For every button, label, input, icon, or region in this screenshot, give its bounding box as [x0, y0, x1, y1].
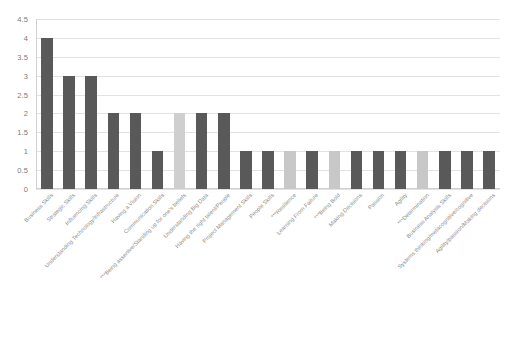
y-axis-tick-1: 1: [24, 147, 28, 156]
x-axis-label: Agility: [393, 192, 408, 207]
bar: [218, 113, 229, 189]
x-axis-label: Communication Skills: [122, 192, 165, 235]
x-axis-label: Learning From Failure: [276, 192, 320, 236]
bar: [483, 151, 494, 189]
y-axis-tick-4.5: 4.5: [17, 15, 28, 24]
x-axis-label: Passion: [367, 192, 386, 211]
y-axis-tick-labels: 00.511.522.533.544.5: [0, 19, 32, 189]
bar-chart: 00.511.522.533.544.5 Business SkillsStra…: [0, 0, 509, 345]
plot-area: [36, 19, 500, 189]
bar: [152, 151, 163, 189]
bar: [306, 151, 317, 189]
bar: [373, 151, 384, 189]
bar: [329, 151, 340, 189]
bar: [284, 151, 295, 189]
bar: [439, 151, 450, 189]
bar: [262, 151, 273, 189]
bar: [85, 76, 96, 189]
y-axis-tick-1.5: 1.5: [17, 128, 28, 137]
bar: [130, 113, 141, 189]
bar: [461, 151, 472, 189]
y-axis-tick-0.5: 0.5: [17, 166, 28, 175]
bar: [63, 76, 74, 189]
y-axis-tick-4: 4: [24, 33, 28, 42]
x-axis-label: ***Being assertive/Standing up for one's…: [98, 192, 186, 280]
y-axis-tick-3: 3: [24, 71, 28, 80]
x-axis-category-labels: Business SkillsStrategic SkillsInfluenci…: [36, 190, 500, 340]
bar: [240, 151, 251, 189]
bar-series: [36, 19, 500, 189]
bar: [417, 151, 428, 189]
bar: [174, 113, 185, 189]
y-axis-tick-3.5: 3.5: [17, 52, 28, 61]
y-axis-tick-2: 2: [24, 109, 28, 118]
bar: [41, 38, 52, 189]
y-axis-tick-0: 0: [24, 185, 28, 194]
bar: [108, 113, 119, 189]
bar: [196, 113, 207, 189]
bar: [351, 151, 362, 189]
y-axis-tick-2.5: 2.5: [17, 90, 28, 99]
bar: [395, 151, 406, 189]
